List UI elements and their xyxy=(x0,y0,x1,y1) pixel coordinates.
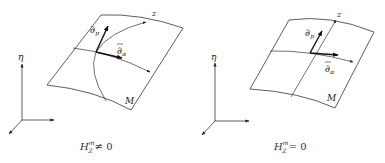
caption: HmZ= 0 xyxy=(273,139,307,154)
axis-triad xyxy=(9,64,54,134)
depth-axis xyxy=(202,121,215,135)
vector-alpha-label: ∂α xyxy=(117,45,126,57)
surface-m xyxy=(47,15,183,110)
axis-triad xyxy=(202,63,249,135)
direction-label-z: z xyxy=(151,9,157,18)
caption: HmZ≠ 0 xyxy=(79,139,113,154)
vector-alpha-label: ∂α xyxy=(325,63,334,75)
surface-curve-vertical xyxy=(94,22,146,101)
diagram-canvas: η ∂p ∂α z M HmZ≠ 0 η xyxy=(0,0,385,163)
direction-label-z: z xyxy=(336,10,342,19)
axis-label-eta: η xyxy=(211,52,217,62)
vector-p-label: ∂p xyxy=(305,27,314,40)
surface-label-m: M xyxy=(124,96,135,106)
left-panel: η ∂p ∂α z M HmZ≠ 0 xyxy=(9,9,183,154)
axis-label-eta: η xyxy=(18,52,24,62)
surface-curve-horizontal xyxy=(73,48,150,72)
right-panel: η ∂p ∂α z M HmZ= 0 xyxy=(202,10,374,154)
surface-label-m: M xyxy=(326,93,337,103)
depth-axis xyxy=(9,120,22,134)
vector-d-alpha xyxy=(310,53,338,55)
vector-p-label: ∂p xyxy=(90,24,99,37)
